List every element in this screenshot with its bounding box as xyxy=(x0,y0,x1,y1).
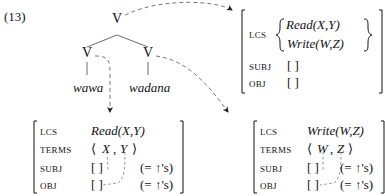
feature-subj-label: SUBJ xyxy=(260,164,282,174)
subj-equation: (= ↑'s) xyxy=(140,160,173,176)
feature-obj-label: OBJ xyxy=(40,181,57,191)
obj-value: [ ] xyxy=(307,177,319,193)
obj-equation: (= ↑'s) xyxy=(140,177,173,193)
subj-equation: (= ↑'s) xyxy=(340,160,373,176)
obj-value: [ ] xyxy=(287,75,299,91)
feature-obj-label: OBJ xyxy=(260,181,277,191)
feature-lcs-label: LCS xyxy=(260,127,277,137)
feature-terms-label: TERMS xyxy=(40,145,72,155)
feature-subj-label: SUBJ xyxy=(249,62,271,72)
subj-value: [ ] xyxy=(91,160,103,176)
feature-lcs-label: LCS xyxy=(249,30,266,40)
terms-sep: , xyxy=(330,141,333,157)
feature-subj-label: SUBJ xyxy=(40,164,62,174)
terms-sep: , xyxy=(113,141,116,157)
lcs-value: Read(X,Y) xyxy=(91,123,145,139)
feature-obj-label: OBJ xyxy=(249,79,266,89)
subj-value: [ ] xyxy=(287,58,299,74)
terms-close: ⟩ xyxy=(132,141,137,157)
feature-lcs-label: LCS xyxy=(40,127,57,137)
terms-open: ⟨ xyxy=(91,141,96,157)
subj-value: [ ] xyxy=(307,160,319,176)
terms-open: ⟨ xyxy=(307,141,312,157)
terms-x: X xyxy=(102,141,110,157)
lcs-value-read: Read(X,Y) xyxy=(286,17,340,33)
feature-terms-label: TERMS xyxy=(260,145,292,155)
lcs-value: Write(W,Z) xyxy=(307,123,364,139)
obj-value: [ ] xyxy=(91,177,103,193)
terms-close: ⟩ xyxy=(348,141,353,157)
obj-equation: (= ↑'s) xyxy=(340,177,373,193)
terms-w: W xyxy=(317,141,328,157)
lcs-value-write: Write(W,Z) xyxy=(287,36,344,52)
terms-z: Z xyxy=(337,141,344,157)
terms-y: Y xyxy=(120,141,127,157)
